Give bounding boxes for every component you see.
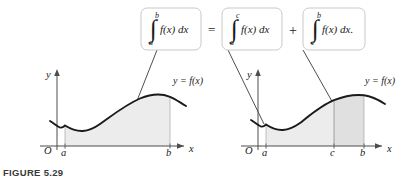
- shaded-region-c-to-b: [334, 95, 364, 146]
- shaded-region-a-to-b: [65, 95, 170, 146]
- tick-label-a-left: a: [61, 147, 66, 158]
- tick-label-b-left: b: [166, 147, 171, 158]
- integral-lower-limit-2: a: [230, 38, 234, 47]
- origin-label-right: O: [245, 145, 253, 156]
- x-axis-arrow-left: [177, 143, 184, 149]
- tick-label-a-right: a: [262, 147, 267, 158]
- callout-integral-a-to-c[interactable]: ∫ a c f(x) dx: [222, 8, 282, 50]
- y-axis-arrow-left: [54, 69, 60, 76]
- curve-label-left: y = f(x): [172, 75, 204, 87]
- callout-integral-a-to-b[interactable]: ∫ a b f(x) dx: [141, 8, 201, 50]
- figure-container: y x O a b y = f(x) y x O a c b y = f(x) …: [0, 0, 419, 189]
- callout-integral-c-to-b[interactable]: ∫ c b f(x) dx.: [303, 8, 365, 50]
- integral-body-2: f(x) dx: [241, 23, 270, 36]
- integral-lower-limit-1: a: [149, 38, 153, 47]
- graph-left: [40, 69, 186, 150]
- integral-upper-limit-3: b: [317, 11, 321, 20]
- y-axis-label-left: y: [45, 69, 51, 80]
- integral-lower-limit-3: c: [311, 38, 315, 47]
- integral-upper-limit-1: b: [155, 11, 159, 20]
- leader-line-integral-a-to-c: [228, 50, 264, 124]
- y-axis-arrow-right: [255, 69, 261, 76]
- integral-body-3: f(x) dx.: [322, 23, 353, 36]
- equals-operator: =: [208, 22, 215, 37]
- graph-right: [241, 69, 385, 150]
- curve-label-right: y = f(x): [364, 75, 396, 87]
- equation-callouts: ∫ a b f(x) dx = ∫ a c f(x) dx + ∫ c: [141, 8, 365, 50]
- y-axis-label-right: y: [246, 69, 252, 80]
- x-axis-arrow-right: [375, 143, 382, 149]
- figure-illustration: y x O a b y = f(x) y x O a c b y = f(x) …: [0, 0, 419, 189]
- tick-label-c-right: c: [330, 147, 335, 158]
- plus-operator: +: [289, 23, 297, 38]
- integral-body-1: f(x) dx: [160, 23, 189, 36]
- x-axis-label-left: x: [188, 143, 194, 154]
- figure-caption: FIGURE 5.29: [3, 167, 63, 178]
- tick-label-b-right: b: [360, 147, 365, 158]
- integral-upper-limit-2: c: [236, 11, 240, 20]
- origin-label-left: O: [44, 145, 52, 156]
- x-axis-label-right: x: [386, 143, 392, 154]
